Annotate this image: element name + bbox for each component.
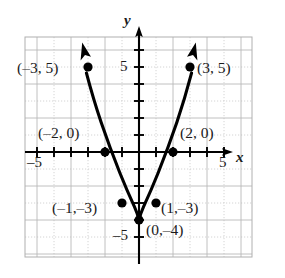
point-vertex (134, 215, 143, 224)
point-neg3 (83, 62, 92, 71)
point-pos3 (185, 62, 194, 71)
point-label-0-neg4: (0,–4) (146, 222, 183, 238)
point-label-3-5: (3, 5) (197, 60, 231, 76)
y-axis (135, 26, 143, 264)
y-axis-label: y (124, 13, 131, 28)
x-axis-label: x (236, 150, 244, 165)
point-neg2 (100, 147, 109, 156)
curve-arrow-right (187, 43, 197, 61)
point-neg1 (117, 198, 126, 207)
point-label-neg3-5: (–3, 5) (17, 60, 58, 76)
point-label-1-neg3: (1,–3) (161, 200, 198, 216)
point-label-neg1-neg3: (–1,–3) (52, 200, 97, 216)
point-label-neg2-0: (–2, 0) (38, 125, 79, 141)
graph-figure: y x 5 –5 –5 5 (–3, 5) (–2, 0) (–1,–3) (0… (0, 0, 285, 278)
y-tick-label-5: 5 (120, 59, 128, 74)
point-label-2-0: (2, 0) (180, 125, 214, 141)
x-tick-label-neg5: –5 (27, 155, 42, 170)
x-tick-label-5: 5 (219, 155, 227, 170)
x-axis (25, 148, 233, 156)
point-pos2 (168, 147, 177, 156)
point-pos1 (151, 198, 160, 207)
y-tick-label-neg5: –5 (113, 228, 128, 243)
curve-arrow-left (81, 43, 91, 61)
